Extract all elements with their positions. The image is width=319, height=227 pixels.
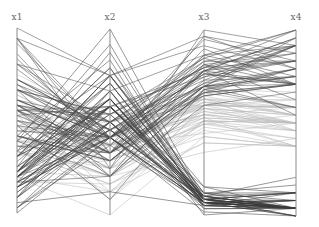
parallel-coordinates-chart (0, 0, 319, 227)
axis-label-x4: x4 (290, 12, 301, 22)
axis-label-x2: x2 (104, 12, 115, 22)
axis-label-x3: x3 (198, 12, 209, 22)
axis-label-x1: x1 (11, 12, 22, 22)
data-lines (17, 28, 296, 216)
